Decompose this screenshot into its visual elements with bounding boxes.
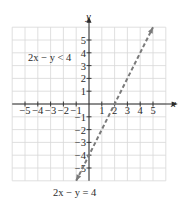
x-tick-label: 5: [150, 105, 155, 116]
x-tick-label: −4: [32, 105, 44, 116]
y-tick-label: 5: [81, 35, 86, 46]
y-tick-label: −3: [75, 137, 86, 148]
coordinate-plane: −5−4−3−2−112345−5−4−3−2−112345 x y 2x − …: [0, 0, 184, 206]
x-tick-label: 3: [125, 105, 130, 116]
y-tick-label: −1: [75, 112, 86, 123]
y-tick-label: 4: [81, 48, 87, 59]
x-tick-label: −5: [19, 105, 30, 116]
x-tick-label: 1: [99, 105, 104, 116]
y-tick-label: 1: [81, 86, 86, 97]
inequality-label: 2x − y < 4: [28, 52, 72, 63]
y-axis-label: y: [85, 10, 91, 22]
x-axis-label: x: [170, 97, 176, 109]
boundary-equation-label: 2x − y = 4: [53, 187, 97, 198]
x-tick-label: −3: [45, 105, 56, 116]
y-tick-label: 3: [81, 61, 86, 72]
x-tick-label: 4: [138, 105, 144, 116]
y-tick-label: 2: [81, 73, 86, 84]
y-tick-label: −2: [75, 125, 86, 136]
x-tick-label: −2: [58, 105, 69, 116]
y-tick-label: −4: [75, 150, 87, 161]
x-tick-label: 2: [112, 105, 117, 116]
line-arrow-icon: [76, 174, 81, 181]
